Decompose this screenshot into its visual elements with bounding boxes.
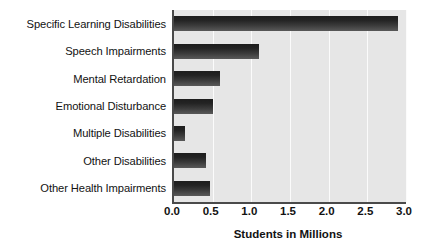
x-tick-label: 0.0 [164,205,180,217]
x-tick-label: 3.0 [396,205,412,217]
bar [174,181,210,196]
bar [174,126,185,141]
bars-layer [174,10,406,202]
gridline [406,10,407,202]
category-label: Emotional Disturbance [0,100,166,112]
bar [174,16,398,31]
category-label: Multiple Disabilities [0,127,166,139]
category-axis: Specific Learning DisabilitiesSpeech Imp… [0,10,166,202]
bar [174,44,259,59]
bar-chart: Specific Learning DisabilitiesSpeech Imp… [0,0,433,251]
category-label: Specific Learning Disabilities [0,18,166,30]
value-axis: 0.00.51.01.52.02.53.0 [172,205,404,223]
bar [174,99,213,114]
category-label: Speech Impairments [0,45,166,57]
bar [174,153,206,168]
category-label: Mental Retardation [0,73,166,85]
category-label: Other Disabilities [0,155,166,167]
x-tick-label: 0.5 [203,205,219,217]
x-tick-label: 2.5 [357,205,373,217]
x-tick-label: 1.0 [241,205,257,217]
category-label: Other Health Impairments [0,182,166,194]
plot-area [172,10,406,204]
x-tick-label: 2.0 [319,205,335,217]
x-axis-title: Students in Millions [172,228,404,240]
x-tick-label: 1.5 [280,205,296,217]
bar [174,71,220,86]
